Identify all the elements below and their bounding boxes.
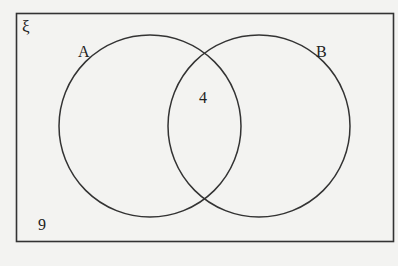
universal-set-symbol: ξ: [22, 17, 30, 36]
intersection-value: 4: [199, 89, 207, 106]
set-b-circle: [168, 35, 350, 217]
outside-value: 9: [38, 216, 46, 233]
set-a-circle: [59, 35, 241, 217]
venn-diagram: ξ A B 4 9: [0, 0, 398, 266]
set-b-label: B: [316, 43, 327, 60]
set-a-label: A: [78, 43, 90, 60]
universal-set-rectangle: [17, 14, 394, 242]
